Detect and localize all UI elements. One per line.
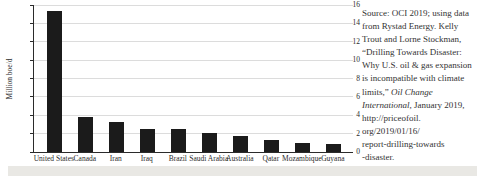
source-text: org/2019/01/16/: [362, 126, 420, 136]
bar: [47, 11, 62, 152]
y-tick-label: 6: [332, 93, 360, 101]
source-line: org/2019/01/16/: [362, 125, 486, 138]
bar: [295, 143, 310, 152]
source-line: Why U.S. oil & gas expansion: [362, 59, 486, 72]
y-tick-label: 12: [332, 38, 360, 46]
y-tick-mark: [30, 115, 33, 116]
source-text: Source: OCI 2019; using data: [362, 8, 469, 18]
x-category-label: Iraq: [141, 154, 153, 163]
gridline: [34, 5, 353, 6]
source-text-italic: Oil Change: [391, 87, 433, 97]
y-axis-label: Million boe/d: [5, 58, 14, 99]
source-citation: Source: OCI 2019; using datafrom Rystad …: [362, 7, 486, 164]
x-category-label: Guyana: [321, 154, 344, 163]
plot-area: [33, 5, 353, 153]
source-text: -disaster.: [362, 152, 394, 162]
x-category-label: Brazil: [169, 154, 187, 163]
bar: [109, 122, 124, 152]
source-line: report-drilling-towards: [362, 138, 486, 151]
bar: [264, 140, 279, 152]
source-line: Trout and Lorne Stockman,: [362, 33, 486, 46]
x-category-label: Iran: [110, 154, 122, 163]
source-line: from Rystad Energy. Kelly: [362, 20, 486, 33]
gridline: [34, 96, 353, 97]
gridline: [34, 23, 353, 24]
source-line: “Drilling Towards Disaster:: [362, 46, 486, 59]
x-category-label: Australia: [226, 154, 254, 163]
source-text: limits,”: [362, 87, 391, 97]
source-line: is incompatible with climate: [362, 72, 486, 85]
bar: [140, 129, 155, 152]
y-tick-mark: [30, 23, 33, 24]
x-category-label: Canada: [74, 154, 97, 163]
source-text: http://priceofoil.: [362, 113, 421, 123]
gridline: [34, 78, 353, 79]
source-text: Why U.S. oil & gas expansion: [362, 60, 472, 70]
bar: [78, 117, 93, 152]
bar: [202, 133, 217, 152]
y-tick-label: 2: [332, 130, 360, 138]
source-line: http://priceofoil.: [362, 112, 486, 125]
y-tick-mark: [30, 60, 33, 61]
bottom-band: [8, 166, 477, 176]
y-tick-label: 16: [332, 1, 360, 9]
y-tick-label: 14: [332, 19, 360, 27]
x-category-label: Mozambique: [282, 154, 322, 163]
gridline: [34, 41, 353, 42]
source-text: report-drilling-towards: [362, 139, 444, 149]
gridline: [34, 60, 353, 61]
source-text: from Rystad Energy. Kelly: [362, 21, 458, 31]
source-text-italic: International: [362, 100, 410, 110]
source-line: limits,” Oil Change: [362, 86, 486, 99]
y-tick-mark: [30, 78, 33, 79]
figure: Million boe/d 0246810121416 United State…: [0, 0, 488, 177]
source-text: Trout and Lorne Stockman,: [362, 34, 461, 44]
y-tick-label: 8: [332, 75, 360, 83]
bar-chart: Million boe/d 0246810121416 United State…: [0, 0, 360, 165]
y-tick-mark: [30, 96, 33, 97]
x-category-label: Qatar: [262, 154, 279, 163]
source-line: International, January 2019,: [362, 99, 486, 112]
source-line: Source: OCI 2019; using data: [362, 7, 486, 20]
source-line: -disaster.: [362, 151, 486, 164]
source-text: , January 2019,: [410, 100, 465, 110]
bar: [233, 136, 248, 152]
y-tick-label: 10: [332, 56, 360, 64]
y-tick-mark: [30, 152, 33, 153]
source-text: is incompatible with climate: [362, 73, 464, 83]
bar: [171, 129, 186, 152]
y-tick-mark: [30, 133, 33, 134]
x-category-label: Saudi Arabia: [189, 154, 228, 163]
source-text: “Drilling Towards Disaster:: [362, 47, 462, 57]
gridline: [34, 115, 353, 116]
x-category-label: United States: [34, 154, 74, 163]
y-tick-mark: [30, 41, 33, 42]
y-tick-label: 4: [332, 111, 360, 119]
y-tick-mark: [30, 5, 33, 6]
